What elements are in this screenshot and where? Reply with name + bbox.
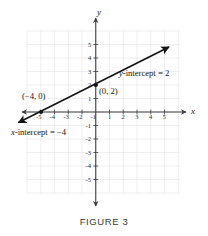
x-tick--2: -2 xyxy=(77,114,82,121)
y-tick--3: -3 xyxy=(86,150,91,157)
y-tick--5: -5 xyxy=(86,177,91,184)
point-y-intercept xyxy=(94,83,98,87)
x-tick-1: 1 xyxy=(108,114,111,121)
y-intercept-annotation: y-intercept = 2 xyxy=(119,69,169,78)
y-tick--1: -1 xyxy=(86,123,91,130)
x-tick-4: 4 xyxy=(149,114,152,121)
x-tick-5: 5 xyxy=(163,114,166,121)
x-tick--3: -3 xyxy=(64,114,69,121)
point-label-0-2: (0, 2) xyxy=(99,87,118,96)
figure-caption: FIGURE 3 xyxy=(0,216,208,227)
figure-container: y x -5 -4 -3 -2 -1 1 2 3 4 5 5 4 3 2 1 -… xyxy=(0,0,208,236)
axis-lines xyxy=(22,18,186,206)
y-tick--2: -2 xyxy=(86,136,91,143)
x-tick-3: 3 xyxy=(135,114,138,121)
x-tick-2: 2 xyxy=(122,114,125,121)
x-tick--4: -4 xyxy=(50,114,55,121)
y-tick-2: 2 xyxy=(88,82,91,89)
x-intercept-annotation: x-intercept = −4 xyxy=(11,128,66,137)
x-tick--1: -1 xyxy=(91,114,96,121)
y-tick--4: -4 xyxy=(86,163,91,170)
x-intercept-annotation-text: -intercept = −4 xyxy=(15,127,66,137)
coordinate-plane-graph xyxy=(0,0,208,236)
y-axis-label: y xyxy=(97,8,101,17)
y-tick-3: 3 xyxy=(88,69,91,76)
y-intercept-annotation-text: -intercept = 2 xyxy=(123,68,169,78)
x-axis-label: x xyxy=(191,107,195,116)
y-tick-5: 5 xyxy=(88,42,91,49)
y-tick-1: 1 xyxy=(88,96,91,103)
x-tick--5: -5 xyxy=(36,114,41,121)
point-label-neg4-0: (−4, 0) xyxy=(22,92,45,101)
y-tick-4: 4 xyxy=(88,55,91,62)
